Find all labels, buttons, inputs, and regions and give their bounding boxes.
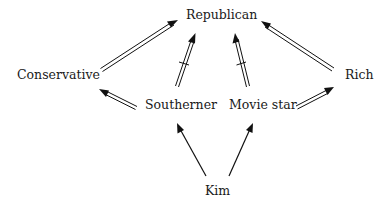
edge-rich-to-republican <box>261 21 334 71</box>
inheritance-network-diagram: Republican Conservative Rich Southerner … <box>0 0 385 210</box>
node-kim: Kim <box>205 185 230 198</box>
node-southerner: Southerner <box>145 99 217 112</box>
node-rich: Rich <box>345 69 373 82</box>
node-movie-star: Movie star <box>229 99 297 112</box>
node-republican: Republican <box>186 9 257 22</box>
edge-conservative-to-republican <box>101 20 179 72</box>
edge-kim-to-moviestar <box>229 123 253 176</box>
edge-kim-to-southerner <box>177 123 206 176</box>
edge-southerner-to-republican-negated <box>176 33 196 87</box>
edge-moviestar-to-republican-negated <box>233 33 250 87</box>
node-conservative: Conservative <box>17 69 100 82</box>
edge-moviestar-to-rich <box>296 87 334 109</box>
edge-southerner-to-conservative <box>99 89 137 110</box>
